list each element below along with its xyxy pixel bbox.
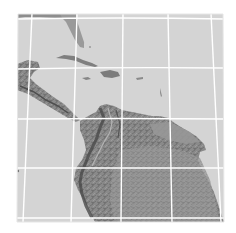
relief-map[interactable]: [0, 0, 236, 233]
bahamas: [82, 42, 84, 44]
bahamas-2: [89, 46, 91, 48]
parallel-3: [17, 119, 224, 120]
